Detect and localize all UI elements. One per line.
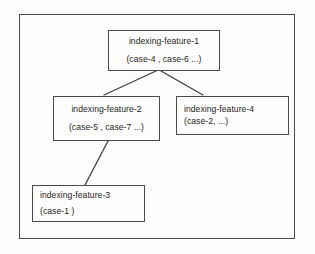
node-indexing-feature-1[interactable]: indexing-feature-1 (case-4 , case-6 ...) <box>108 30 220 71</box>
node-indexing-feature-3[interactable]: indexing-feature-3 (case-1 ) <box>32 185 145 222</box>
node-1-cases: (case-4 , case-6 ...) <box>126 55 201 64</box>
node-3-cases: (case-1 ) <box>40 207 74 216</box>
edge-feature2-to-feature3 <box>85 141 108 185</box>
node-3-label: indexing-feature-3 <box>40 191 110 200</box>
edge-feature1-to-feature4 <box>161 71 203 95</box>
node-indexing-feature-2[interactable]: indexing-feature-2 (case-5 , case-7 ...) <box>53 96 160 141</box>
diagram-canvas: indexing-feature-1 (case-4 , case-6 ...)… <box>0 0 315 254</box>
node-1-label: indexing-feature-1 <box>129 37 199 46</box>
node-2-label: indexing-feature-2 <box>71 105 141 114</box>
node-2-cases: (case-5 , case-7 ...) <box>69 123 144 132</box>
node-4-cases: (case-2, ...) <box>184 117 228 126</box>
node-4-label: indexing-feature-4 <box>184 105 254 114</box>
edge-feature1-to-feature2 <box>104 71 156 95</box>
node-indexing-feature-4[interactable]: indexing-feature-4 (case-2, ...) <box>176 96 289 135</box>
